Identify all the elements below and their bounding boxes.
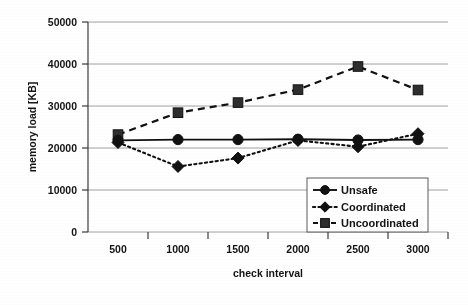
data-point-unsafe-1000 <box>173 135 183 145</box>
chart-figure: 50000 40000 30000 20000 10000 0 500 1000… <box>0 0 468 305</box>
legend-item-unsafe[interactable]: Unsafe <box>313 184 378 196</box>
chart-legend[interactable]: Unsafe Coordinated Uncoordinated <box>307 178 428 232</box>
x-axis-ticks <box>148 232 448 239</box>
error-bars-uncoordinated <box>115 65 419 138</box>
x-tick-label-2500: 2500 <box>346 243 370 255</box>
y-axis <box>82 22 88 232</box>
x-tick-label-500: 500 <box>109 243 127 255</box>
x-tick-label-1500: 1500 <box>226 243 250 255</box>
y-tick-label-10000: 10000 <box>48 184 77 196</box>
data-point-coordinated-1500 <box>232 152 244 164</box>
y-tick-labels: 50000 40000 30000 20000 10000 0 <box>48 16 77 238</box>
data-point-uncoordinated-2500 <box>353 62 363 72</box>
y-tick-label-20000: 20000 <box>48 142 77 154</box>
x-tick-label-2000: 2000 <box>286 243 310 255</box>
legend-marker-unsafe-circle-icon <box>321 186 330 195</box>
line-chart-svg: 50000 40000 30000 20000 10000 0 500 1000… <box>0 0 468 305</box>
series-uncoordinated-line <box>118 67 418 135</box>
data-point-coordinated-1000 <box>172 160 184 172</box>
data-point-unsafe-2500 <box>353 135 363 145</box>
x-axis-title: check interval <box>233 267 303 279</box>
data-point-uncoordinated-1000 <box>173 108 183 118</box>
legend-item-uncoordinated[interactable]: Uncoordinated <box>313 217 419 229</box>
data-point-unsafe-1500 <box>233 135 243 145</box>
y-tick-label-30000: 30000 <box>48 100 77 112</box>
y-tick-label-50000: 50000 <box>48 16 77 28</box>
series-unsafe-group <box>113 134 423 145</box>
series-coordinated-group <box>112 128 424 173</box>
legend-label-coordinated: Coordinated <box>341 201 406 213</box>
data-point-unsafe-2000 <box>293 134 303 144</box>
legend-label-unsafe: Unsafe <box>341 184 378 196</box>
data-point-unsafe-3000 <box>413 135 423 145</box>
series-uncoordinated-group <box>113 62 423 140</box>
data-point-unsafe-500 <box>113 135 123 145</box>
data-point-uncoordinated-2000 <box>293 85 303 95</box>
y-tick-label-0: 0 <box>71 226 77 238</box>
data-point-uncoordinated-3000 <box>413 85 423 95</box>
x-tick-labels: 500 1000 1500 2000 2500 3000 <box>109 243 430 255</box>
x-tick-label-3000: 3000 <box>406 243 430 255</box>
y-tick-label-40000: 40000 <box>48 58 77 70</box>
series-unsafe-line <box>118 139 418 140</box>
data-point-uncoordinated-1500 <box>233 98 243 108</box>
x-tick-label-1000: 1000 <box>166 243 190 255</box>
legend-marker-uncoordinated-square-icon <box>321 219 330 228</box>
y-axis-title: memory load [KB] <box>26 82 38 172</box>
legend-label-uncoordinated: Uncoordinated <box>341 217 419 229</box>
